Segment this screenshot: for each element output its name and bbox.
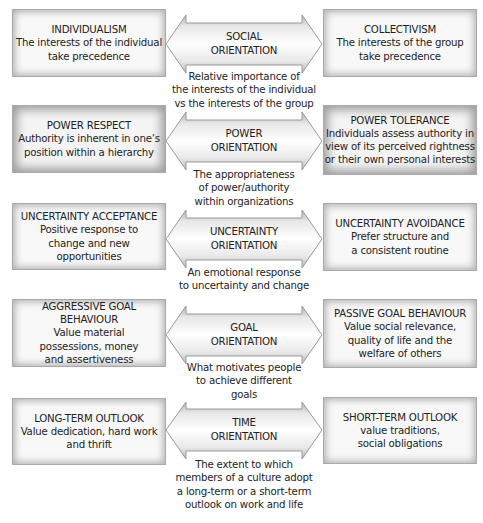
collectivism-desc: The interests of the group take preceden… [336,36,463,62]
short-term-outlook-desc: value traditions, social obligations [358,424,443,450]
social-orientation-caption: Relative importance of the interests of … [165,70,323,110]
aggressive-goal-title: AGGRESSIVE GOAL BEHAVIOUR [13,300,165,326]
power-tolerance-box: POWER TOLERANCE Individuals assess autho… [323,105,477,175]
power-respect-title: POWER RESPECT [47,119,131,132]
individualism-title: INDIVIDUALISM [51,23,126,36]
aggressive-goal-box: AGGRESSIVE GOAL BEHAVIOUR Value material… [12,299,166,367]
goal-orientation-arrow: GOAL ORIENTATION [165,305,323,365]
time-orientation-arrow: TIME ORIENTATION [165,401,323,461]
collectivism-title: COLLECTIVISM [364,23,436,36]
short-term-outlook-title: SHORT-TERM OUTLOOK [343,411,457,424]
individualism-desc: The interests of the individual take pre… [16,36,162,62]
collectivism-box: COLLECTIVISM The interests of the group … [323,9,477,77]
uncertainty-orientation-caption: An emotional response to uncertainty and… [165,266,323,293]
passive-goal-title: PASSIVE GOAL BEHAVIOUR [334,307,466,320]
goal-orientation-caption: What motivates people to achieve differe… [165,361,323,401]
goal-orientation-label: GOAL ORIENTATION [165,321,323,349]
uncertainty-acceptance-desc: Positive response to change and new oppo… [40,223,138,263]
power-tolerance-title: POWER TOLERANCE [350,114,449,127]
uncertainty-avoidance-desc: Prefer structure and a consistent routin… [351,230,449,256]
long-term-outlook-box: LONG-TERM OUTLOOK Value dedication, hard… [12,398,166,465]
social-orientation-arrow: SOCIAL ORIENTATION [165,14,323,74]
time-orientation-caption: The extent to which members of a culture… [165,458,323,512]
short-term-outlook-box: SHORT-TERM OUTLOOK value traditions, soc… [323,397,477,464]
passive-goal-desc: Value social relevance, quality of life … [344,320,456,360]
power-orientation-caption: The appropriateness of power/authority w… [165,168,323,208]
uncertainty-orientation-label: UNCERTAINTY ORIENTATION [165,225,323,253]
time-orientation-label: TIME ORIENTATION [165,416,323,444]
aggressive-goal-desc: Value material possessions, money and as… [40,326,139,366]
uncertainty-avoidance-box: UNCERTAINTY AVOIDANCE Prefer structure a… [323,203,477,271]
uncertainty-acceptance-title: UNCERTAINTY ACCEPTANCE [21,210,157,223]
power-orientation-arrow: POWER ORIENTATION [165,111,323,171]
social-orientation-label: SOCIAL ORIENTATION [165,30,323,58]
long-term-outlook-title: LONG-TERM OUTLOOK [34,412,144,425]
power-respect-box: POWER RESPECT Authority is inherent in o… [12,105,166,173]
passive-goal-box: PASSIVE GOAL BEHAVIOUR Value social rele… [323,299,477,368]
power-respect-desc: Authority is inherent in one’s position … [18,132,160,158]
uncertainty-orientation-arrow: UNCERTAINTY ORIENTATION [165,209,323,269]
long-term-outlook-desc: Value dedication, hard work and thrift [21,425,158,451]
power-orientation-label: POWER ORIENTATION [165,127,323,155]
uncertainty-avoidance-title: UNCERTAINTY AVOIDANCE [335,217,464,230]
individualism-box: INDIVIDUALISM The interests of the indiv… [12,9,166,77]
power-tolerance-desc: Individuals assess authority in view of … [325,127,475,167]
uncertainty-acceptance-box: UNCERTAINTY ACCEPTANCE Positive response… [12,203,166,270]
